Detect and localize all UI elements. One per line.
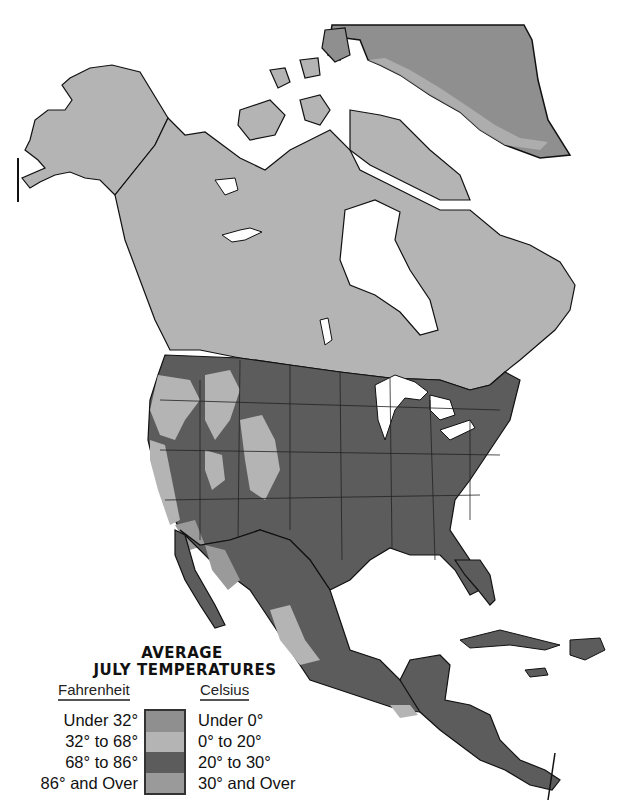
jamaica [525,668,548,677]
swatch-86-over [146,773,184,794]
swatch-68-86 [146,752,184,773]
usa [148,355,520,595]
legend-celsius-under-0: Under 0° [198,710,263,730]
fahrenheit-header: Fahrenheit [58,682,130,701]
legend-celsius-30-over: 30° and Over [198,773,295,793]
legend-title-line1: AVERAGE [126,644,238,662]
legend-title-line2: JULY TEMPERATURES [90,661,280,679]
swatch-32-68 [146,732,184,753]
hispaniola [570,638,605,660]
legend-fahrenheit-68-86: 68° to 86° [65,752,138,772]
legend-celsius-20-30: 20° to 30° [198,752,271,772]
legend-celsius-0-20: 0° to 20° [198,731,262,751]
legend-fahrenheit-32-68: 32° to 68° [65,731,138,751]
cuba [460,630,560,650]
celsius-header: Celsius [200,682,249,701]
legend-fahrenheit-86-over: 86° and Over [41,773,138,793]
swatch-under-32 [146,711,184,732]
legend-fahrenheit-under-32: Under 32° [64,710,138,730]
florida [455,560,495,605]
legend-swatches [144,709,186,795]
